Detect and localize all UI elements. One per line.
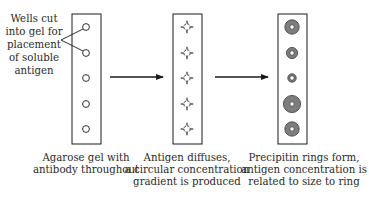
antigen-well [83,75,90,82]
caption-line: Precipitin rings form, [249,152,360,163]
callout-line: Wells cut [10,13,58,24]
precipitin-ring [285,20,299,34]
precipitin-ring [286,47,297,58]
antigen-well [83,24,90,31]
callout-line: of soluble [9,52,59,63]
panel-gel [72,14,101,144]
precipitin-ring [283,95,300,112]
panel-rings [278,14,307,144]
caption-line: Antigen diffuses, [143,152,231,163]
diffusing-well [181,98,193,110]
caption-line: gradient is produced [133,176,241,187]
caption-line: related to size to ring [248,176,360,187]
diffusing-well [181,72,193,84]
callout-line: antigen [14,65,54,76]
callout-line: into gel for [5,26,62,37]
caption-line: antigen concentration is [241,164,367,175]
caption-rings: Precipitin rings form, antigen concentra… [241,152,367,187]
panel-diffusion [173,14,202,144]
caption-line: Agarose gel with [41,152,130,163]
callout-line: placement [7,39,62,50]
antigen-well [83,101,90,108]
caption-line: a circular concentration [125,164,250,175]
diffusing-well [181,123,193,135]
antigen-well [83,126,90,133]
precipitin-ring [288,74,296,82]
precipitin-ring [285,122,299,136]
caption-diffusion: Antigen diffuses, a circular concentrati… [125,152,250,187]
diagram-canvas: Wells cut into gel for placement of solu… [0,0,369,204]
diffusing-well [181,21,193,33]
antigen-well [83,50,90,57]
callout-label: Wells cut into gel for placement of solu… [5,13,62,76]
diffusing-well [181,47,193,59]
